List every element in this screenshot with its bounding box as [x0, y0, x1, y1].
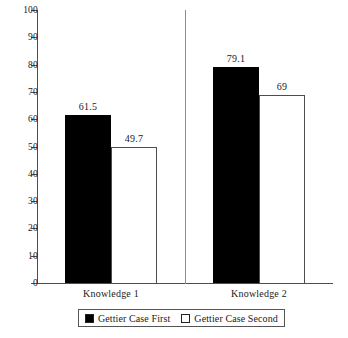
y-axis-tick-label-wrap: 80	[0, 60, 38, 70]
bar-value-label: 79.1	[203, 53, 269, 64]
y-axis-tick-label: 40	[12, 169, 38, 179]
y-axis-tick-label-wrap: 60	[0, 114, 38, 124]
y-axis-tick-label-wrap: 0	[0, 278, 38, 288]
bar-value-label: 49.7	[101, 133, 167, 144]
y-axis-tick-label: 10	[12, 251, 38, 261]
legend-label: Gettier Case Second	[194, 313, 278, 324]
y-axis-tick-label-wrap: 10	[0, 251, 38, 261]
x-axis-category-label: Knowledge 1	[51, 288, 171, 300]
y-axis-tick-label-wrap: 50	[0, 142, 38, 152]
y-axis-tick-label: 90	[12, 32, 38, 42]
legend-swatch-icon	[85, 314, 94, 323]
y-axis-tick-label-wrap: 70	[0, 87, 38, 97]
bar	[259, 95, 305, 283]
bar	[111, 147, 157, 283]
y-axis-tick-label-wrap: 20	[0, 223, 38, 233]
y-axis-tick-label-wrap: 40	[0, 169, 38, 179]
category-separator	[185, 10, 186, 284]
y-axis-tick-label-wrap: 30	[0, 196, 38, 206]
y-axis-tick-label: 20	[12, 223, 38, 233]
y-axis-tick-label: 70	[12, 87, 38, 97]
bar-value-label: 69	[249, 81, 315, 92]
y-axis-tick-label-wrap: 90	[0, 32, 38, 42]
y-axis-tick-label: 100	[12, 5, 38, 15]
chart-legend: Gettier Case First Gettier Case Second	[78, 309, 285, 327]
y-axis-tick-label: 0	[12, 278, 38, 288]
y-axis-tick-label: 50	[12, 142, 38, 152]
bar-value-label: 61.5	[55, 101, 121, 112]
bar-chart: 1009080706050403020100 61.549.779.169 Kn…	[0, 0, 348, 338]
bar	[213, 67, 259, 283]
x-axis-category-label: Knowledge 2	[199, 288, 319, 300]
y-axis-tick-label: 80	[12, 60, 38, 70]
legend-entry-gettier-case-second: Gettier Case Second	[181, 313, 278, 324]
y-axis-tick-label: 60	[12, 114, 38, 124]
legend-entry-gettier-case-first: Gettier Case First	[85, 313, 170, 324]
legend-label: Gettier Case First	[98, 313, 170, 324]
y-axis-tick-label-wrap: 100	[0, 5, 38, 15]
legend-swatch-icon	[181, 314, 190, 323]
y-axis-tick-label: 30	[12, 196, 38, 206]
